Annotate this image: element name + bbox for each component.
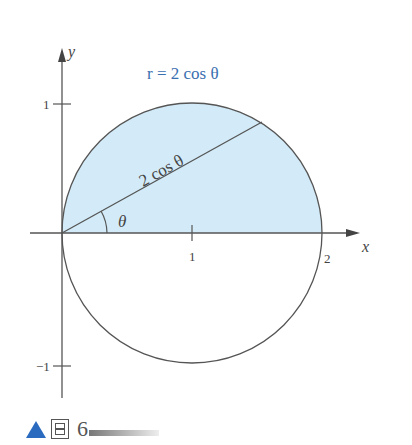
polar-diagram: y x 1 −1 1 2 r = 2 cos θ 2 cos θ θ (0, 0, 412, 445)
x-tick-label-2: 2 (324, 251, 331, 266)
angle-theta-label: θ (118, 212, 126, 231)
shaded-upper-half (62, 103, 322, 233)
y-tick-label-1: 1 (43, 97, 50, 112)
y-axis-arrow-icon (58, 48, 66, 62)
curve-equation-label: r = 2 cos θ (147, 64, 219, 83)
figure-glyph-icon (51, 419, 69, 439)
caption-gradient-bar (89, 430, 159, 436)
x-axis-arrow-icon (346, 229, 360, 237)
y-axis-label: y (66, 43, 76, 61)
triangle-marker-icon (26, 421, 46, 438)
y-tick-label-neg1: −1 (36, 359, 50, 374)
x-axis-label: x (361, 238, 369, 255)
figure-caption: 6 (26, 418, 159, 440)
figure-number: 6 (77, 419, 88, 439)
x-tick-label-1: 1 (189, 249, 196, 264)
